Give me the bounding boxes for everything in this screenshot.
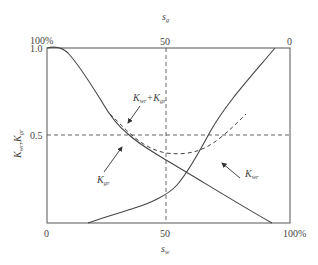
kgr-annotation-label: Kgr — [96, 174, 110, 186]
kgr-arrow — [104, 147, 122, 172]
x2-axis-label-sg: sg — [162, 11, 170, 23]
x-tick-0: 0 — [44, 228, 49, 239]
kwr-annotation-label: Kwr — [244, 168, 259, 180]
ksum-arrow — [128, 106, 140, 123]
x2-tick-50: 50 — [160, 36, 170, 47]
ksum-annotation-label: Kwr+Kgr — [132, 92, 166, 104]
kwr-curve — [88, 48, 275, 223]
x-tick-100: 100% — [283, 228, 306, 239]
kwr-arrow — [222, 163, 240, 178]
plot-frame — [47, 48, 290, 223]
y-tick-0.5: 0.5 — [30, 130, 43, 141]
x-axis-label-sw: sw — [161, 243, 170, 255]
y-axis-label: Kwr,Kgr — [12, 129, 24, 159]
relative-permeability-chart: 100% 1.0 0.5 Kwr,Kgr 0 50 100% sw 50 0 s… — [0, 0, 318, 265]
y-tick-1.0: 1.0 — [30, 43, 43, 54]
x2-tick-0: 0 — [287, 36, 292, 47]
x-tick-50: 50 — [160, 228, 170, 239]
